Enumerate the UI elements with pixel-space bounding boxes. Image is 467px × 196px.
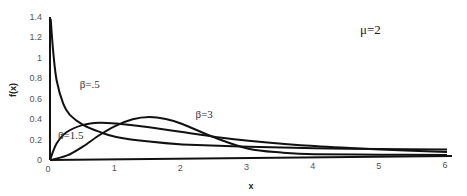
y-tick-label: 0.2 (29, 135, 42, 145)
x-axis (50, 156, 452, 160)
x-tick-label: 6 (442, 160, 447, 170)
y-tick-label: 1.2 (29, 32, 42, 42)
x-tick-label: 2 (178, 163, 183, 173)
x-axis-title: x (248, 181, 253, 191)
y-tick-label: 0.6 (29, 94, 42, 104)
series-label: β=3 (196, 108, 214, 120)
y-tick-label: 1.4 (29, 12, 42, 22)
x-tick-label: 3 (244, 162, 249, 172)
x-tick-label: 0 (45, 164, 50, 174)
y-tick-label: 0.4 (29, 114, 42, 124)
series-label: β=1.5 (58, 129, 84, 141)
series-label: β=.5 (80, 78, 101, 90)
y-tick-label: 0.8 (29, 73, 42, 83)
y-axis-title: f(x) (8, 83, 18, 97)
series-labels: β=.5β=1.5β=3 (58, 78, 213, 141)
x-tick-label: 5 (376, 161, 381, 171)
series-lines (50, 19, 447, 160)
y-tick-label: 1 (37, 53, 42, 63)
x-tick-label: 4 (310, 161, 315, 171)
y-tick-label: 0 (37, 155, 42, 165)
parameter-label: μ=2 (360, 22, 381, 37)
axes (50, 17, 452, 160)
x-tick-label: 1 (112, 163, 117, 173)
x-tick-labels: 0123456 (45, 160, 447, 174)
weibull-pdf-chart: 00.20.40.60.811.21.4 0123456 f(x) x μ=2 … (0, 0, 467, 196)
y-tick-labels: 00.20.40.60.811.21.4 (29, 12, 42, 165)
